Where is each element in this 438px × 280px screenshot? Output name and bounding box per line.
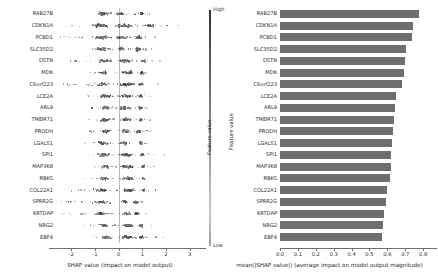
- beeswarm-point: [89, 142, 90, 143]
- bar: [280, 127, 393, 135]
- beeswarm-point: [122, 178, 123, 179]
- beeswarm-point: [122, 143, 123, 144]
- beeswarm-tick-label: -2: [61, 252, 81, 257]
- beeswarm-point: [122, 189, 123, 190]
- beeswarm-point: [151, 48, 152, 49]
- beeswarm-point: [162, 237, 163, 238]
- beeswarm-point: [69, 37, 70, 38]
- beeswarm-point: [105, 50, 106, 51]
- bar: [280, 151, 391, 159]
- beeswarm-point: [135, 24, 136, 25]
- beeswarm-point: [75, 84, 76, 85]
- beeswarm-point: [74, 201, 75, 202]
- beeswarm-point: [122, 107, 123, 108]
- beeswarm-tick-label: 3: [180, 252, 200, 257]
- shap-figure: RAB27BCDKN1APCBD1SLC35D2DSTNMDKC6orf223L…: [0, 0, 438, 280]
- beeswarm-point: [146, 72, 147, 73]
- beeswarm-point: [109, 61, 110, 62]
- beeswarm-point: [113, 83, 114, 84]
- beeswarm-point: [119, 236, 120, 237]
- beeswarm-point: [129, 13, 130, 14]
- beeswarm-point: [140, 143, 141, 144]
- beeswarm-point: [70, 84, 71, 85]
- beeswarm-point: [110, 12, 111, 13]
- beeswarm-point: [114, 14, 115, 15]
- bar: [280, 10, 419, 18]
- beeswarm-point: [66, 26, 67, 27]
- beeswarm-point: [122, 73, 123, 74]
- beeswarm-point: [92, 202, 93, 203]
- beeswarm-point: [112, 166, 113, 167]
- beeswarm-point: [145, 237, 146, 238]
- beeswarm-point: [130, 178, 131, 179]
- beeswarm-point: [141, 225, 142, 226]
- bar: [280, 233, 382, 241]
- beeswarm-point: [153, 26, 154, 27]
- beeswarm-point: [109, 83, 110, 84]
- beeswarm-point: [120, 37, 121, 38]
- beeswarm-point: [116, 72, 117, 73]
- beeswarm-point: [149, 120, 150, 121]
- beeswarm-point: [90, 201, 91, 202]
- beeswarm-point: [117, 83, 118, 84]
- beeswarm-point: [129, 95, 130, 96]
- beeswarm-point: [132, 153, 133, 154]
- beeswarm-point: [149, 13, 150, 14]
- beeswarm-point: [80, 213, 81, 214]
- beeswarm-point: [122, 225, 123, 226]
- beeswarm-point: [93, 142, 94, 143]
- beeswarm-point: [89, 154, 90, 155]
- bar: [280, 45, 406, 53]
- beeswarm-point: [86, 61, 87, 62]
- beeswarm-point: [71, 190, 72, 191]
- beeswarm-point: [137, 25, 138, 26]
- beeswarm-point: [141, 72, 142, 73]
- beeswarm-point: [136, 60, 137, 61]
- beeswarm-point: [96, 237, 97, 238]
- beeswarm-point: [103, 13, 104, 14]
- beeswarm-point: [77, 213, 78, 214]
- beeswarm-point: [134, 190, 135, 191]
- beeswarm-point: [129, 154, 130, 155]
- beeswarm-point: [133, 84, 134, 85]
- beeswarm-point: [129, 167, 130, 168]
- beeswarm-point: [64, 213, 65, 214]
- beeswarm-point: [94, 236, 95, 237]
- beeswarm-point: [130, 36, 131, 37]
- beeswarm-point: [103, 225, 104, 226]
- beeswarm-point: [113, 118, 114, 119]
- beeswarm-point: [149, 96, 150, 97]
- beeswarm-point: [130, 119, 131, 120]
- beeswarm-point: [90, 60, 91, 61]
- beeswarm-point: [147, 13, 148, 14]
- beeswarm-point: [91, 85, 92, 86]
- beeswarm-point: [139, 178, 140, 179]
- beeswarm-point: [94, 83, 95, 84]
- beeswarm-point: [107, 95, 108, 96]
- beeswarm-point: [92, 107, 93, 108]
- beeswarm-point: [125, 226, 126, 227]
- beeswarm-point: [125, 83, 126, 84]
- beeswarm-point: [69, 213, 70, 214]
- beeswarm-point: [147, 166, 148, 167]
- beeswarm-point: [102, 96, 103, 97]
- bar: [280, 163, 391, 171]
- beeswarm-point: [139, 107, 140, 108]
- beeswarm-point: [125, 49, 126, 50]
- beeswarm-point: [140, 37, 141, 38]
- beeswarm-point: [143, 237, 144, 238]
- beeswarm-tick-label: 2: [156, 252, 176, 257]
- beeswarm-point: [97, 178, 98, 179]
- beeswarm-point: [164, 154, 165, 155]
- beeswarm-point: [141, 166, 142, 167]
- bar-x-axis-line: [280, 248, 437, 249]
- beeswarm-point: [126, 14, 127, 15]
- beeswarm-point: [98, 166, 99, 167]
- beeswarm-point: [63, 83, 64, 84]
- beeswarm-point: [107, 108, 108, 109]
- beeswarm-point: [128, 119, 129, 120]
- beeswarm-point: [166, 25, 167, 26]
- beeswarm-point: [161, 26, 162, 27]
- beeswarm-point: [95, 72, 96, 73]
- beeswarm-point: [112, 213, 113, 214]
